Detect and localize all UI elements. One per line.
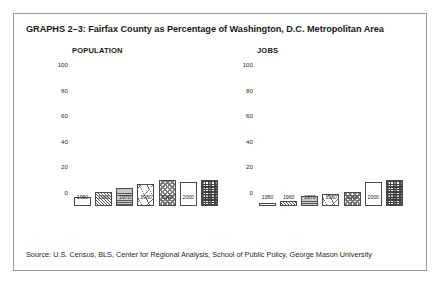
y-tick-label: 100	[243, 61, 253, 68]
bars-population	[72, 78, 220, 206]
y-tick-label: 40	[246, 137, 253, 144]
x-tick-label: 1950	[259, 194, 276, 200]
figure-frame: GRAPHS 2–3: Fairfax County as Percentage…	[13, 13, 427, 271]
chart-panel-jobs: JOBS 020406080100 1950196019701980199020…	[229, 46, 414, 226]
bar-slot	[137, 78, 154, 206]
source-note: Source: U.S. Census, BLS, Center for Reg…	[26, 250, 416, 259]
x-tick-label: 1990	[159, 194, 176, 200]
x-tick-label: 1970	[301, 194, 318, 200]
bar-slot	[116, 78, 133, 206]
plot-area-jobs: 020406080100 195019601970198019902000200…	[257, 64, 405, 206]
plot-area-population: 020406080100 195019601970198019902000200…	[72, 64, 220, 206]
bar-slot	[365, 78, 382, 206]
bar-slot	[259, 78, 276, 206]
x-axis-jobs: 1950196019701980199020002007	[257, 194, 405, 200]
bar-slot	[180, 78, 197, 206]
panel-title-jobs: JOBS	[257, 46, 278, 55]
x-tick-label: 1970	[116, 194, 133, 200]
y-tick-label: 80	[61, 86, 68, 93]
y-tick-label: 40	[61, 137, 68, 144]
x-tick-label: 2007	[201, 194, 218, 200]
panel-title-population: POPULATION	[72, 46, 123, 55]
y-tick-label: 0	[250, 189, 253, 196]
y-tick-label: 60	[246, 112, 253, 119]
x-tick-label: 2000	[365, 194, 382, 200]
bar-slot	[322, 78, 339, 206]
bar-slot	[301, 78, 318, 206]
bar-slot	[159, 78, 176, 206]
x-tick-label: 1960	[280, 194, 297, 200]
chart-panel-population: POPULATION 020406080100 1950196019701980…	[44, 46, 229, 226]
y-tick-label: 20	[246, 163, 253, 170]
y-tick-label: 80	[246, 86, 253, 93]
x-tick-label: 2007	[386, 194, 403, 200]
y-tick-label: 60	[61, 112, 68, 119]
x-tick-label: 1980	[322, 194, 339, 200]
x-tick-label: 1960	[95, 194, 112, 200]
y-tick-label: 100	[58, 61, 68, 68]
x-tick-label: 1990	[344, 194, 361, 200]
bar-slot	[386, 78, 403, 206]
x-tick-label: 1950	[74, 194, 91, 200]
x-tick-label: 2000	[180, 194, 197, 200]
bars-jobs	[257, 78, 405, 206]
bar-slot	[74, 78, 91, 206]
bar-slot	[280, 78, 297, 206]
bar-slot	[95, 78, 112, 206]
y-tick-label: 0	[65, 189, 68, 196]
bar-1960	[280, 201, 297, 206]
bar-1950	[259, 203, 276, 206]
bar-slot	[344, 78, 361, 206]
bar-slot	[201, 78, 218, 206]
y-tick-label: 20	[61, 163, 68, 170]
x-tick-label: 1980	[137, 194, 154, 200]
figure-title: GRAPHS 2–3: Fairfax County as Percentage…	[26, 24, 416, 34]
x-axis-population: 1950196019701980199020002007	[72, 194, 220, 200]
